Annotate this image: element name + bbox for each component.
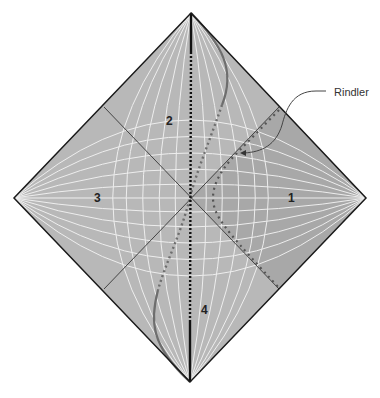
rindler-label: Rindler xyxy=(334,86,369,98)
region-label-3: 3 xyxy=(94,191,101,205)
region-label-2: 2 xyxy=(166,114,173,128)
region-label-1: 1 xyxy=(288,191,295,205)
region-label-4: 4 xyxy=(201,303,208,317)
penrose-diagram: Rindler 1 2 3 4 xyxy=(0,0,380,398)
